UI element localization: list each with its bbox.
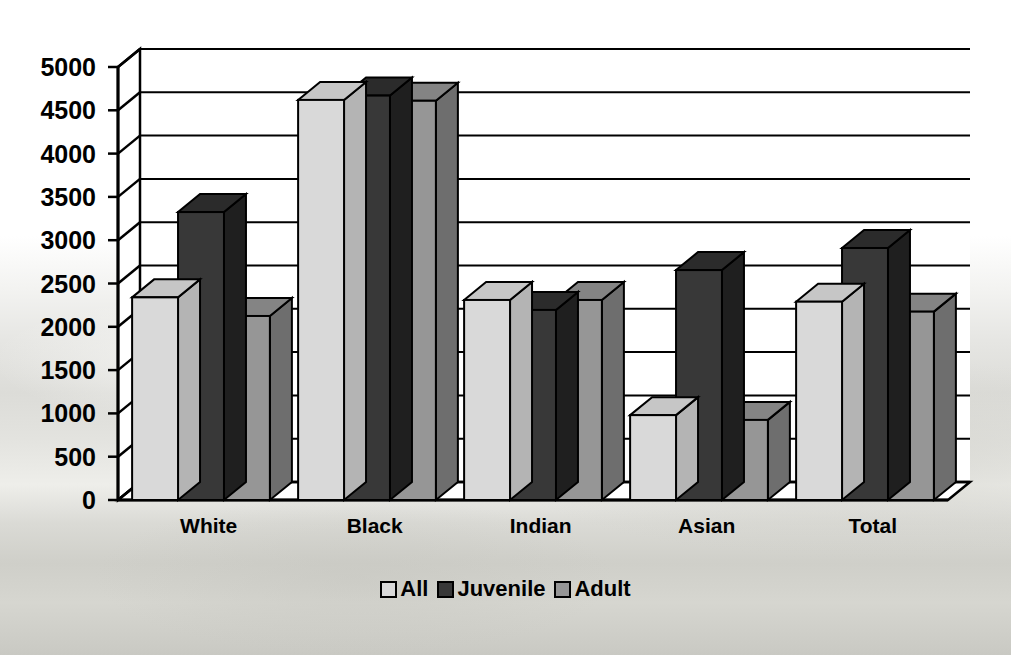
y-axis-tick-label: 3500	[40, 184, 96, 209]
bar-front-face	[464, 300, 510, 500]
legend-swatch-icon	[554, 581, 571, 598]
bar-side-face	[270, 298, 292, 500]
bar	[796, 284, 864, 500]
chart-title	[0, 0, 1011, 1]
x-axis-tick-label: Black	[347, 514, 403, 538]
x-axis-tick-label: White	[180, 514, 237, 538]
bar-side-face	[344, 82, 366, 500]
bar-side-face	[888, 230, 910, 500]
y-axis-tick-label: 4500	[40, 98, 96, 123]
y-axis-tick-label: 2000	[40, 314, 96, 339]
bar-chart: 0500100015002000250030003500400045005000…	[0, 0, 1011, 655]
plot-area	[0, 0, 1011, 655]
bar-front-face	[796, 302, 842, 500]
y-axis-tick-label: 0	[82, 488, 96, 513]
bar-front-face	[630, 415, 676, 500]
bar-side-face	[390, 78, 412, 500]
legend-item[interactable]: Juvenile	[437, 578, 545, 600]
y-axis-tick-label: 2500	[40, 271, 96, 296]
bar	[132, 279, 200, 500]
bar-front-face	[298, 100, 344, 500]
legend-swatch-icon	[437, 581, 454, 598]
bar	[630, 397, 698, 500]
y-axis-tick-label: 3000	[40, 228, 96, 253]
bar-side-face	[436, 83, 458, 500]
bar-side-face	[722, 252, 744, 500]
y-axis-tick-label: 4000	[40, 141, 96, 166]
x-axis-tick-label: Total	[848, 514, 897, 538]
bar-side-face	[178, 279, 200, 500]
bar-side-face	[556, 292, 578, 500]
legend-label: Juvenile	[457, 578, 545, 600]
bar-side-face	[602, 282, 624, 500]
bar-side-face	[842, 284, 864, 500]
legend-label: All	[400, 578, 428, 600]
chart-legend: AllJuvenileAdult	[0, 578, 1011, 600]
bar-side-face	[510, 282, 532, 500]
legend-label: Adult	[574, 578, 630, 600]
legend-swatch-icon	[380, 581, 397, 598]
legend-item[interactable]: Adult	[554, 578, 630, 600]
y-axis-tick-label: 1500	[40, 358, 96, 383]
x-axis-tick-label: Indian	[510, 514, 572, 538]
bar	[298, 82, 366, 500]
legend-item[interactable]: All	[380, 578, 428, 600]
y-axis-tick-label: 500	[54, 444, 96, 469]
bar-front-face	[132, 297, 178, 500]
y-axis-tick-labels: 0500100015002000250030003500400045005000	[0, 0, 96, 655]
y-axis-tick-label: 5000	[40, 55, 96, 80]
bar	[464, 282, 532, 500]
x-axis-tick-label: Asian	[678, 514, 735, 538]
y-axis-tick-label: 1000	[40, 401, 96, 426]
bar-side-face	[934, 294, 956, 500]
bar-side-face	[224, 194, 246, 500]
